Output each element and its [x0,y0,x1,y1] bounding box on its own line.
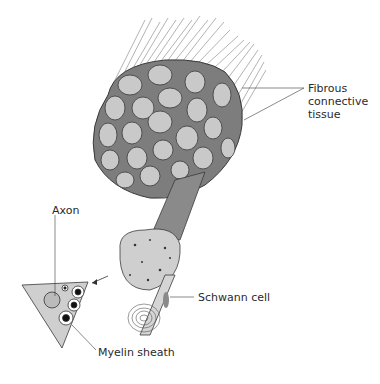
nerve-diagram [0,0,380,384]
label-schwann-cell: Schwann cell [198,291,270,304]
schwann-cell-body [163,292,169,308]
label-line-1: Fibrous [308,82,368,95]
label-myelin-sheath: Myelin sheath [98,346,175,359]
label-line-2: connective [308,95,368,108]
label-axon: Axon [52,204,79,217]
label-line-3: tissue [308,108,368,121]
label-fibrous-connective-tissue: Fibrous connective tissue [308,82,368,121]
